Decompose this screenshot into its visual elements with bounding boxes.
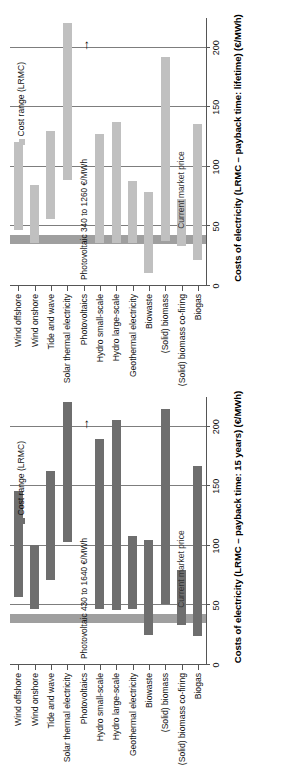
value-axis-tick-label: 150 bbox=[211, 100, 221, 115]
category-axis-tick bbox=[100, 665, 101, 670]
category-label: Biowaste bbox=[144, 673, 154, 708]
photovoltaic-offscale-annotation: Photovoltaic 430 to 1640 €/MWh bbox=[79, 538, 89, 659]
value-axis-tick bbox=[206, 106, 210, 107]
legend-swatch bbox=[19, 518, 25, 524]
value-axis-tick-label: 0 bbox=[211, 283, 221, 288]
category-label: Geothermal electricity bbox=[128, 673, 138, 756]
category-label: Photovoltaics bbox=[79, 294, 89, 345]
category-axis-tick bbox=[84, 665, 85, 670]
category-label: Photovoltaics bbox=[79, 673, 89, 724]
gridline bbox=[10, 426, 206, 427]
category-axis-tick bbox=[51, 286, 52, 291]
value-axis-tick-label: 50 bbox=[211, 600, 221, 610]
category-label: Geothermal electricity bbox=[128, 294, 138, 377]
gridline bbox=[10, 106, 206, 107]
value-axis-tick bbox=[206, 225, 210, 226]
gridline bbox=[10, 485, 206, 486]
category-axis-tick bbox=[51, 665, 52, 670]
current-market-price-label: Current market price bbox=[176, 530, 186, 607]
value-axis-tick bbox=[206, 485, 210, 486]
category-axis-tick bbox=[182, 286, 183, 291]
category-label: Hydro large-scale bbox=[111, 673, 121, 740]
category-axis-tick bbox=[18, 665, 19, 670]
category-label: Hydro small-scale bbox=[95, 673, 105, 741]
bar-cost-range bbox=[63, 23, 72, 180]
category-axis-tick bbox=[165, 286, 166, 291]
bar-cost-range bbox=[30, 545, 39, 609]
value-axis-tick-label: 200 bbox=[211, 419, 221, 434]
plot-area-lifetime: 050100150200Wind offshoreWind onshoreTid… bbox=[0, 0, 303, 378]
bar-cost-range bbox=[193, 124, 202, 260]
category-axis-tick bbox=[165, 665, 166, 670]
legend: Cost range (LRMC) bbox=[16, 441, 26, 525]
bar-cost-range bbox=[161, 409, 170, 604]
category-axis-tick bbox=[116, 665, 117, 670]
value-axis-tick bbox=[206, 426, 210, 427]
value-axis-tick-label: 0 bbox=[211, 662, 221, 667]
legend-label: Cost range (LRMC) bbox=[16, 62, 26, 137]
category-label: Biogas bbox=[193, 673, 203, 699]
category-axis-tick bbox=[67, 665, 68, 670]
value-axis-tick-label: 50 bbox=[211, 221, 221, 231]
category-label: Tide and wave bbox=[46, 673, 56, 729]
gridline bbox=[10, 47, 206, 48]
category-axis-tick bbox=[182, 665, 183, 670]
category-axis-tick bbox=[100, 286, 101, 291]
legend: Cost range (LRMC) bbox=[16, 62, 26, 146]
value-axis-tick-label: 150 bbox=[211, 479, 221, 494]
category-axis-tick bbox=[67, 286, 68, 291]
category-label: Wind offshore bbox=[13, 294, 23, 347]
category-axis-tick bbox=[198, 665, 199, 670]
panel-lifetime: 050100150200Wind offshoreWind onshoreTid… bbox=[0, 0, 303, 378]
value-axis-tick-label: 100 bbox=[211, 538, 221, 553]
bar-cost-range bbox=[193, 466, 202, 636]
category-axis-tick bbox=[198, 286, 199, 291]
category-label: Tide and wave bbox=[46, 294, 56, 350]
bar-cost-range bbox=[95, 439, 104, 609]
category-label: Hydro small-scale bbox=[95, 294, 105, 362]
category-axis-tick bbox=[84, 286, 85, 291]
bar-cost-range bbox=[112, 420, 121, 611]
photovoltaic-offscale-annotation: Photovoltaic 340 to 1260 €/MWh bbox=[79, 159, 89, 280]
category-label: Hydro large-scale bbox=[111, 294, 121, 361]
category-axis-tick bbox=[149, 286, 150, 291]
category-axis-tick bbox=[116, 286, 117, 291]
bar-cost-range bbox=[46, 131, 55, 219]
bar-cost-range bbox=[144, 192, 153, 273]
category-axis-tick bbox=[35, 665, 36, 670]
axis-title-15-years: Costs of electricity (LRMC – payback tim… bbox=[232, 389, 243, 665]
plot-area-15-years: 050100150200Wind offshoreWind onshoreTid… bbox=[0, 379, 303, 757]
bar-cost-range bbox=[63, 402, 72, 543]
value-axis-tick bbox=[206, 604, 210, 605]
value-axis-spine bbox=[10, 664, 206, 665]
current-market-price-label: Current market price bbox=[176, 151, 186, 228]
value-axis-spine bbox=[10, 285, 206, 286]
category-axis-tick bbox=[35, 286, 36, 291]
value-axis-tick-label: 200 bbox=[211, 40, 221, 55]
category-label: Wind offshore bbox=[13, 673, 23, 726]
bar-cost-range bbox=[95, 134, 104, 244]
legend-swatch bbox=[19, 139, 25, 145]
bar-cost-range bbox=[30, 185, 39, 243]
category-label: Biowaste bbox=[144, 294, 154, 329]
bar-cost-range bbox=[112, 122, 121, 243]
value-axis-tick bbox=[206, 664, 210, 665]
value-axis-tick bbox=[206, 166, 210, 167]
category-label: (Solid) biomass bbox=[160, 673, 170, 732]
value-axis-tick bbox=[206, 285, 210, 286]
bar-cost-range bbox=[128, 536, 137, 609]
value-axis-tick bbox=[206, 47, 210, 48]
category-label: Biogas bbox=[193, 294, 203, 320]
category-axis-tick bbox=[133, 665, 134, 670]
bar-cost-range bbox=[14, 142, 23, 230]
bar-cost-range bbox=[128, 181, 137, 243]
bar-cost-range bbox=[46, 471, 55, 581]
category-axis-tick bbox=[133, 286, 134, 291]
category-label: Solar thermal electricity bbox=[62, 673, 72, 762]
category-label: (Solid) biomass co-firing bbox=[177, 294, 187, 386]
category-axis-tick bbox=[149, 665, 150, 670]
offscale-arrow-icon: → bbox=[77, 39, 90, 52]
category-label: (Solid) biomass bbox=[160, 294, 170, 353]
